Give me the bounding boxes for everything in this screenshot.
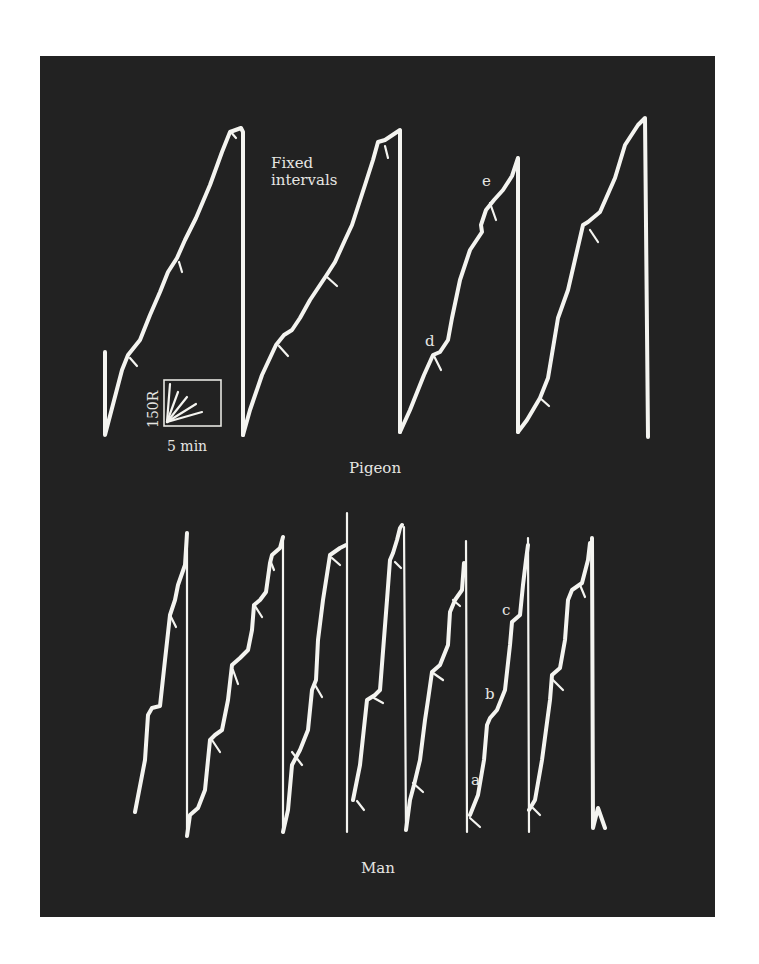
- man-title: Man: [361, 860, 395, 877]
- reinforcement-tick: [395, 562, 401, 568]
- man-reset-line: [466, 541, 467, 832]
- pigeon-records: [105, 118, 648, 437]
- reinforcement-tick: [385, 146, 388, 158]
- pigeon-record-1: [105, 128, 243, 435]
- reinforcement-tick: [255, 606, 262, 617]
- man-record-4: [353, 525, 402, 800]
- pigeon-record-3: [400, 158, 518, 432]
- reinforcement-tick: [490, 203, 496, 220]
- cumulative-records-plot: [0, 0, 759, 964]
- reinforcement-tick: [470, 818, 480, 827]
- point-label-b: b: [485, 686, 495, 703]
- reinforcement-tick: [179, 262, 182, 272]
- point-label-e: e: [482, 173, 491, 190]
- man-record-2: [187, 537, 283, 836]
- reinforcement-tick: [580, 585, 585, 597]
- scale-inset: [164, 380, 221, 426]
- man-record-7: [529, 543, 590, 810]
- reinforcement-tick: [374, 698, 383, 703]
- reinforcement-tick: [279, 346, 288, 356]
- reinforcement-tick: [212, 740, 220, 752]
- reinforcement-tick: [315, 685, 322, 697]
- reinforcement-tick: [434, 356, 441, 370]
- point-label-a: a: [471, 772, 480, 789]
- man-records: [135, 513, 605, 836]
- reinforcement-tick: [130, 358, 137, 366]
- reinforcement-tick: [553, 680, 563, 690]
- reinforcement-tick: [533, 808, 540, 815]
- man-reset-line: [404, 527, 406, 830]
- reinforcement-tick: [433, 673, 443, 680]
- scale-x-label: 5 min: [167, 438, 207, 455]
- fixed-intervals-annotation: Fixed intervals: [271, 155, 337, 189]
- man-reset-line: [592, 538, 605, 828]
- point-label-d: d: [425, 333, 435, 350]
- man-reset-line: [528, 538, 529, 832]
- reinforcement-tick: [540, 398, 549, 406]
- point-label-c: c: [502, 602, 510, 619]
- man-record-1: [135, 533, 187, 812]
- reinforcement-tick: [332, 558, 340, 565]
- scale-y-label: 150R: [145, 391, 162, 428]
- reinforcement-tick: [327, 277, 337, 286]
- reinforcement-tick: [357, 801, 364, 810]
- reinforcement-tick: [233, 670, 238, 684]
- pigeon-record-4: [518, 118, 648, 437]
- man-record-3: [283, 545, 346, 832]
- pigeon-title: Pigeon: [349, 460, 401, 477]
- reinforcement-tick: [590, 230, 598, 242]
